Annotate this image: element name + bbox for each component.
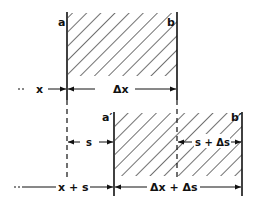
label-dx-plus-ds: Δx + Δs	[150, 181, 198, 194]
label-dx: Δx	[113, 83, 129, 96]
label-s: s	[86, 137, 92, 148]
label-s-plus-ds: s + Δs	[195, 137, 230, 148]
top-hatched-region	[68, 13, 177, 76]
label-a: a	[58, 16, 65, 29]
bottom-dimension-row: x + s Δx + Δs	[14, 181, 241, 194]
label-x: x	[36, 83, 43, 96]
label-x-plus-s: x + s	[58, 181, 89, 194]
label-b-prime: b′	[231, 111, 242, 124]
deformation-diagram: a b x Δx a′ b′ s s + Δs x + s	[0, 0, 260, 206]
label-b: b	[167, 16, 175, 29]
top-dimension-row: x Δx	[18, 83, 176, 96]
label-a-prime: a′	[102, 111, 112, 124]
